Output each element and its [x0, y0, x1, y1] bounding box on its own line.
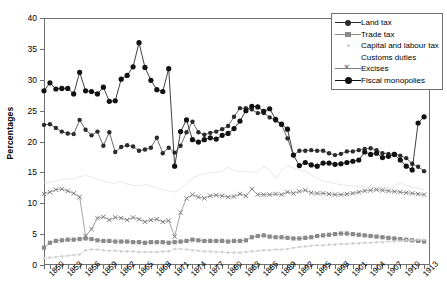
legend-label: Fiscal monopolies	[361, 76, 425, 85]
data-point	[392, 152, 397, 157]
data-point	[71, 191, 75, 195]
data-point	[142, 65, 147, 70]
data-point	[131, 215, 135, 219]
data-point	[150, 251, 153, 254]
data-point	[238, 192, 242, 196]
data-point	[149, 145, 153, 149]
data-point	[197, 249, 200, 252]
data-point	[149, 240, 153, 244]
data-point	[113, 239, 117, 243]
data-point	[262, 249, 265, 252]
data-point	[368, 146, 372, 150]
data-point	[95, 91, 100, 96]
y-axis-tick-mark	[40, 49, 44, 50]
data-point	[363, 233, 367, 237]
x-axis-tick-mark	[44, 265, 45, 269]
data-point	[316, 244, 319, 247]
data-point	[297, 163, 302, 168]
data-point	[107, 218, 111, 222]
data-point	[156, 251, 159, 254]
data-point	[215, 251, 218, 254]
data-point	[416, 120, 421, 125]
data-point	[41, 88, 46, 93]
data-point	[71, 91, 76, 96]
data-point	[321, 233, 325, 237]
data-point	[178, 210, 182, 214]
data-point	[101, 239, 105, 243]
data-point	[422, 169, 426, 173]
legend-item: Customs duties	[335, 52, 438, 64]
legend-marker-icon	[335, 40, 361, 51]
data-point	[214, 129, 218, 133]
y-axis-tick-mark	[40, 172, 44, 173]
data-point	[363, 241, 366, 244]
y-axis-tick-label: 40	[0, 13, 37, 23]
data-point	[417, 238, 420, 241]
data-point	[279, 235, 283, 239]
data-point	[53, 86, 58, 91]
data-point	[184, 239, 188, 243]
data-point	[108, 249, 111, 252]
data-point	[191, 249, 194, 252]
data-point	[334, 243, 337, 246]
data-point	[107, 99, 112, 104]
legend-label: Land tax	[361, 18, 392, 27]
legend-marker-icon	[335, 17, 361, 28]
data-point	[231, 126, 236, 131]
data-point	[309, 235, 313, 239]
data-point	[113, 150, 117, 154]
data-point	[160, 89, 165, 94]
data-point	[83, 88, 88, 93]
data-point	[95, 238, 99, 242]
data-point	[48, 241, 52, 245]
data-point	[107, 130, 111, 134]
data-point	[203, 250, 206, 253]
data-point	[126, 250, 129, 253]
data-point	[190, 192, 194, 196]
data-point	[178, 129, 183, 134]
y-axis-tick-mark	[40, 80, 44, 81]
data-point	[66, 131, 70, 135]
data-point	[214, 136, 219, 141]
data-point	[345, 231, 349, 235]
data-point	[221, 251, 224, 254]
data-point	[54, 126, 58, 130]
data-point	[292, 246, 295, 249]
data-point	[256, 234, 260, 238]
legend-label: Capital and labour tax	[361, 41, 439, 50]
data-point	[255, 104, 260, 109]
data-point	[262, 233, 266, 237]
data-point	[297, 149, 301, 153]
legend-label: Trade tax	[361, 30, 395, 39]
data-point	[161, 151, 165, 155]
y-axis-tick-mark	[40, 234, 44, 235]
data-point	[326, 161, 331, 166]
data-point	[137, 149, 141, 153]
data-point	[268, 249, 271, 252]
data-point	[185, 248, 188, 251]
data-point	[368, 152, 373, 157]
data-point	[196, 238, 200, 242]
data-point	[338, 161, 343, 166]
data-point	[315, 234, 319, 238]
data-point	[60, 238, 64, 242]
chart-legend: Land taxTrade taxCapital and labour taxC…	[331, 13, 443, 90]
data-point	[303, 149, 307, 153]
y-axis-tick-mark	[40, 111, 44, 112]
data-point	[333, 232, 337, 236]
data-point	[196, 130, 200, 134]
data-point	[243, 108, 248, 113]
data-point	[143, 220, 147, 224]
data-point	[332, 162, 337, 167]
data-point	[398, 154, 402, 158]
data-point	[392, 236, 396, 240]
legend-marker-icon: ×	[335, 63, 361, 74]
y-axis-tick-label: 25	[0, 106, 37, 116]
data-point	[291, 236, 295, 240]
data-point	[220, 239, 224, 243]
y-axis-tick-label: 30	[0, 75, 37, 85]
data-point	[333, 153, 337, 157]
data-point	[393, 240, 396, 243]
data-point	[374, 234, 378, 238]
data-point	[410, 162, 414, 166]
